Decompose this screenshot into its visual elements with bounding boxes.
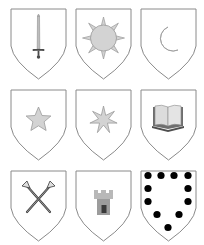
shield-trumpets: Crossed trumpets bbox=[11, 171, 66, 241]
shield-seven-star: Seven-pointed star bbox=[76, 90, 131, 160]
shield-roundels: Eleven roundels in orle bbox=[141, 171, 196, 241]
shield-sword: Sword palewise bbox=[11, 9, 66, 79]
open-book-icon bbox=[152, 105, 184, 132]
shield-sun: Sun in splendour bbox=[76, 9, 131, 79]
shield-moon: Crescent moon bbox=[141, 9, 196, 79]
shield-outline bbox=[141, 9, 196, 79]
shield-book: Open book bbox=[141, 90, 196, 160]
sun-icon bbox=[83, 17, 125, 59]
shield-tower: Tower bbox=[76, 171, 131, 241]
shields-grid: Sword palewise Sun in splendour bbox=[0, 0, 204, 245]
shield-star: Five-pointed star bbox=[11, 90, 66, 160]
shield-outline bbox=[11, 171, 66, 241]
